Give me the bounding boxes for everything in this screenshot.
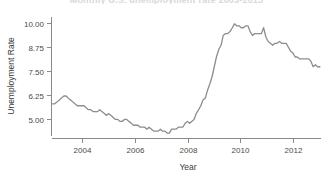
- x-tick-label-1: 2006: [127, 146, 145, 155]
- y-tick-label-1: 6.25: [28, 92, 44, 101]
- y-tick-label-4: 10.00: [24, 20, 45, 29]
- y-tick-label-3: 8.75: [28, 44, 44, 53]
- x-axis-ticks: [83, 139, 294, 144]
- chart-figure: Monthly U.S. unemployment rate 2003-2013…: [0, 0, 333, 183]
- y-tick-label-0: 5.00: [28, 116, 44, 125]
- unemployment-rate-line: [53, 24, 320, 133]
- x-tick-label-3: 2010: [232, 146, 250, 155]
- x-tick-label-0: 2004: [74, 146, 92, 155]
- x-tick-label-2: 2008: [180, 146, 198, 155]
- y-axis-title: Unemployment Rate: [6, 37, 16, 115]
- y-axis-ticks: [47, 24, 52, 120]
- x-tick-label-4: 2012: [285, 146, 303, 155]
- y-tick-label-2: 7.50: [28, 68, 44, 77]
- chart-plot-svg: 10.00 8.75 7.50 6.25 5.00 Unemployment R…: [0, 0, 333, 183]
- x-axis-title: Year: [179, 162, 196, 172]
